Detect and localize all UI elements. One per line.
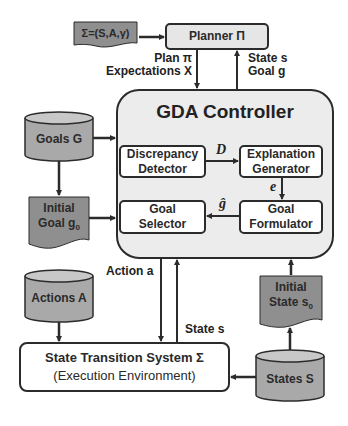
goals: Goals G [25,124,93,154]
sts-title: State Transition System Σ [45,349,204,367]
initial-state-text: State s [269,295,308,309]
actions-label: Actions A [31,291,87,306]
sigma-definition-text: Σ=(S,A,γ) [82,26,130,41]
state-goal-label: State s Goal g [248,52,287,78]
sts-subtitle: (Execution Environment) [53,367,195,385]
state-s-edge-label: State s [185,323,224,336]
initial-state: Initial State s0 [260,277,322,317]
gda-controller-title: GDA Controller [117,97,333,125]
goal-formulator: Goal Formulator [240,201,322,233]
discrepancy-line-1: Discrepancy [127,147,198,162]
planner-label: Planner Π [189,29,245,44]
initial-state-line-1: Initial [275,280,306,295]
goal-g-label: Goal g [248,65,287,78]
goal-selector-line-2: Selector [139,217,186,232]
actions: Actions A [25,283,93,313]
initial-goal: Initial Goal g0 [29,198,89,238]
explanation-line-2: Generator [252,162,309,177]
goal-formulator-line-2: Formulator [249,217,312,232]
gda-controller-label: GDA Controller [156,104,294,119]
plan-expectations-label: Plan π Expectations X [106,52,192,78]
initial-goal-text: Goal g [38,216,75,230]
discrepancy-detector: Discrepancy Detector [120,146,205,177]
initial-goal-line-2: Goal g0 [38,216,80,235]
e-edge-label: e [270,180,276,193]
expectations-label: Expectations X [106,65,192,78]
sigma-definition: Σ=(S,A,γ) [74,23,137,43]
goals-label: Goals G [36,132,82,147]
ghat-edge-label: ĝ [219,197,226,210]
state-transition-system: State Transition System Σ (Execution Env… [20,345,229,389]
discrepancy-line-2: Detector [138,162,187,177]
planner: Planner Π [166,24,268,49]
explanation-line-1: Explanation [247,147,315,162]
initial-state-subscript: 0 [308,302,312,311]
states: States S [256,364,324,394]
explanation-generator: Explanation Generator [240,146,322,177]
goal-selector-line-1: Goal [149,202,176,217]
d-edge-label: D [216,143,226,156]
goal-formulator-line-1: Goal [268,202,295,217]
initial-goal-line-1: Initial [43,201,74,216]
action-a-label: Action a [106,265,153,278]
states-label: States S [266,372,313,387]
initial-state-line-2: State s0 [269,295,313,314]
goal-selector: Goal Selector [120,201,205,233]
initial-goal-subscript: 0 [75,223,79,232]
